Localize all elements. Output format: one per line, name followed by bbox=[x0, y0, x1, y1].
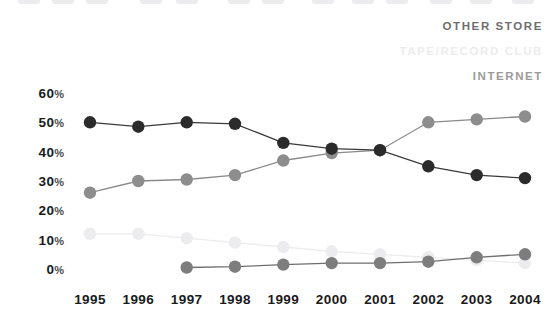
data-point[interactable] bbox=[229, 236, 241, 248]
data-point[interactable] bbox=[84, 187, 96, 199]
data-point[interactable] bbox=[84, 116, 96, 128]
x-axis-tick-1996: 1996 bbox=[115, 292, 161, 307]
data-point[interactable] bbox=[277, 241, 289, 253]
data-point[interactable] bbox=[229, 169, 241, 181]
data-point[interactable] bbox=[277, 258, 289, 270]
data-point[interactable] bbox=[519, 110, 531, 122]
series-mail-order bbox=[181, 248, 532, 274]
data-point[interactable] bbox=[422, 116, 434, 128]
x-axis-tick-2000: 2000 bbox=[309, 292, 355, 307]
series-other-store bbox=[84, 116, 531, 184]
data-point[interactable] bbox=[132, 121, 144, 133]
data-point[interactable] bbox=[132, 175, 144, 187]
data-point[interactable] bbox=[132, 228, 144, 240]
data-point[interactable] bbox=[471, 251, 483, 263]
data-point[interactable] bbox=[326, 257, 338, 269]
data-point[interactable] bbox=[229, 261, 241, 273]
x-axis-tick-1999: 1999 bbox=[260, 292, 306, 307]
x-axis-tick-2004: 2004 bbox=[502, 292, 548, 307]
data-point[interactable] bbox=[181, 261, 193, 273]
data-point[interactable] bbox=[229, 118, 241, 130]
data-point[interactable] bbox=[326, 143, 338, 155]
data-point[interactable] bbox=[374, 144, 386, 156]
data-point[interactable] bbox=[422, 160, 434, 172]
x-axis-tick-2002: 2002 bbox=[405, 292, 451, 307]
data-point[interactable] bbox=[471, 113, 483, 125]
data-point[interactable] bbox=[519, 248, 531, 260]
data-point[interactable] bbox=[277, 137, 289, 149]
data-point[interactable] bbox=[84, 228, 96, 240]
x-axis-tick-2001: 2001 bbox=[357, 292, 403, 307]
x-axis-labels: 1995199619971998199920002001200220032004 bbox=[0, 292, 551, 312]
series-line bbox=[90, 117, 525, 193]
x-axis-tick-1995: 1995 bbox=[67, 292, 113, 307]
series-internet bbox=[84, 110, 531, 199]
data-point[interactable] bbox=[471, 169, 483, 181]
data-point[interactable] bbox=[422, 256, 434, 268]
data-point[interactable] bbox=[519, 172, 531, 184]
data-point[interactable] bbox=[181, 232, 193, 244]
data-point[interactable] bbox=[277, 154, 289, 166]
series-tape-record-club bbox=[84, 228, 531, 270]
x-axis-tick-2003: 2003 bbox=[454, 292, 500, 307]
data-point[interactable] bbox=[181, 173, 193, 185]
x-axis-tick-1997: 1997 bbox=[164, 292, 210, 307]
x-axis-tick-1998: 1998 bbox=[212, 292, 258, 307]
plot-area bbox=[0, 0, 551, 318]
data-point[interactable] bbox=[181, 116, 193, 128]
data-point[interactable] bbox=[374, 257, 386, 269]
line-chart: OTHER STORE TAPE/RECORD CLUB INTERNET 0%… bbox=[0, 0, 551, 318]
data-point[interactable] bbox=[326, 245, 338, 257]
series-line bbox=[90, 122, 525, 178]
